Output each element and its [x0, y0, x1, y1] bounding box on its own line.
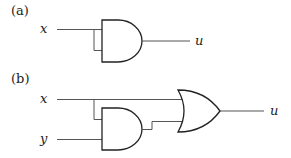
wire-feedback-branch: [94, 30, 102, 51]
and-gate-icon: [102, 108, 142, 150]
circuit-b: (b) x y u: [11, 71, 278, 150]
input-label-x: x: [40, 91, 48, 106]
logic-circuit-diagram: (a) x u (b) x y u: [0, 0, 291, 158]
input-label-x: x: [40, 21, 48, 36]
wire-x-branch-to-and: [94, 100, 102, 120]
panel-label-b: (b): [11, 71, 29, 86]
wire-and-to-or: [142, 122, 183, 130]
panel-label-a: (a): [11, 3, 29, 18]
circuit-a: (a) x u: [11, 3, 203, 62]
output-label-u: u: [270, 103, 278, 118]
or-gate-icon: [178, 90, 220, 132]
and-gate-icon: [102, 20, 142, 62]
output-label-u: u: [195, 33, 203, 48]
input-label-y: y: [39, 131, 48, 146]
